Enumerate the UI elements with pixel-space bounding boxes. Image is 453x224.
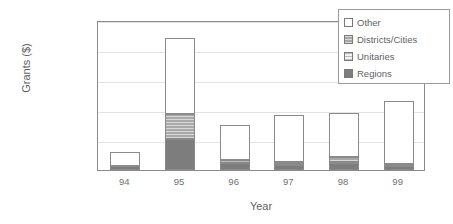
bar-segment-districts-cities bbox=[274, 162, 304, 164]
legend-item[interactable]: Unitaries bbox=[344, 48, 449, 65]
bar-segment-other bbox=[220, 125, 250, 160]
y-axis-title: Grants ($) bbox=[20, 8, 32, 128]
stacked-bar bbox=[220, 20, 250, 170]
bar-segment-other bbox=[165, 38, 195, 114]
legend-item-label: Unitaries bbox=[357, 52, 395, 62]
legend-leader-line bbox=[318, 21, 339, 22]
bar-segment-regions bbox=[384, 166, 414, 170]
gridline bbox=[98, 112, 424, 113]
bar-segment-regions bbox=[165, 139, 195, 171]
districts-cities-swatch-icon bbox=[344, 35, 353, 44]
x-axis-tick-label: 95 bbox=[152, 176, 207, 187]
bar-segment-unitaries bbox=[220, 160, 250, 163]
stacked-bar-chart: Grants ($) Year 02,000,0004,000,0006,000… bbox=[0, 0, 453, 224]
legend-item[interactable]: Other bbox=[344, 14, 449, 31]
bar-segment-regions bbox=[220, 163, 250, 170]
bar-segment-regions bbox=[329, 163, 359, 171]
chart-legend: OtherDistricts/CitiesUnitariesRegions bbox=[338, 9, 450, 84]
bar-segment-districts-cities bbox=[329, 157, 359, 162]
other-swatch-icon bbox=[344, 18, 353, 27]
bar-segment-other bbox=[274, 115, 304, 162]
x-axis-title: Year bbox=[97, 200, 425, 212]
legend-item[interactable]: Districts/Cities bbox=[344, 31, 449, 48]
legend-item-label: Districts/Cities bbox=[357, 35, 417, 45]
bar-segment-other bbox=[384, 101, 414, 164]
stacked-bar bbox=[274, 20, 304, 170]
x-axis-tick-label: 97 bbox=[261, 176, 316, 187]
unitaries-swatch-icon bbox=[344, 52, 353, 61]
bar-segment-regions bbox=[274, 165, 304, 170]
x-axis-tick-label: 96 bbox=[206, 176, 261, 187]
legend-item-label: Regions bbox=[357, 69, 392, 79]
stacked-bar bbox=[110, 20, 140, 170]
x-axis-tick-label: 94 bbox=[97, 176, 152, 187]
stacked-bar bbox=[165, 20, 195, 170]
bar-segment-other bbox=[110, 152, 140, 166]
gridline bbox=[98, 142, 424, 143]
bar-segment-regions bbox=[110, 166, 140, 171]
bar-segment-districts-cities bbox=[165, 114, 195, 139]
x-axis-tick-label: 99 bbox=[370, 176, 425, 187]
bar-segment-other bbox=[329, 113, 359, 157]
regions-swatch-icon bbox=[344, 69, 353, 78]
legend-item-label: Other bbox=[357, 18, 381, 28]
x-axis-tick-label: 98 bbox=[316, 176, 371, 187]
legend-item[interactable]: Regions bbox=[344, 65, 449, 82]
